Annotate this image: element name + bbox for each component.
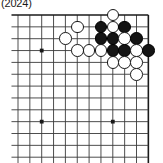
white-stone[interactable] xyxy=(118,56,131,69)
white-stone[interactable] xyxy=(71,44,84,57)
white-stone[interactable] xyxy=(118,32,131,45)
star-point xyxy=(111,120,115,124)
black-stone[interactable] xyxy=(107,32,120,45)
black-stone[interactable] xyxy=(118,44,131,57)
white-stone[interactable] xyxy=(59,32,72,45)
white-stone[interactable] xyxy=(71,21,84,34)
star-point xyxy=(40,49,44,53)
black-stone[interactable] xyxy=(130,32,143,45)
black-stone[interactable] xyxy=(107,44,120,57)
black-stone[interactable] xyxy=(118,21,131,34)
white-stone[interactable] xyxy=(83,44,96,57)
white-stone[interactable] xyxy=(130,68,143,81)
black-stone[interactable] xyxy=(95,32,108,45)
white-stone[interactable] xyxy=(130,44,143,57)
white-stone[interactable] xyxy=(95,44,108,57)
black-stone[interactable] xyxy=(142,44,155,57)
white-stone[interactable] xyxy=(107,21,120,34)
white-stone[interactable] xyxy=(130,56,143,69)
star-point xyxy=(40,120,44,124)
white-stone[interactable] xyxy=(107,56,120,69)
go-diagram-figure: (2024) xyxy=(0,0,163,163)
